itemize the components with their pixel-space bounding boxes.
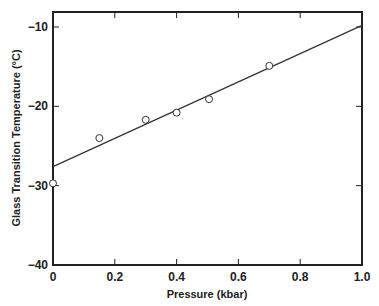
y-axis-label: Glass Transition Temperature (°C) bbox=[10, 49, 22, 227]
x-tick-label: 0.6 bbox=[230, 270, 247, 284]
y-tick-label: −30 bbox=[28, 179, 49, 193]
data-point bbox=[266, 62, 273, 69]
data-point bbox=[50, 180, 57, 187]
data-point bbox=[173, 109, 180, 116]
data-point bbox=[206, 96, 213, 103]
y-tick-label: −20 bbox=[28, 99, 49, 113]
x-tick-label: 0.8 bbox=[292, 270, 309, 284]
data-point bbox=[96, 135, 103, 142]
y-tick-label: −10 bbox=[28, 20, 49, 34]
x-tick-label: 1.0 bbox=[354, 270, 371, 284]
x-axis-ticks: 00.20.40.60.81.0 bbox=[50, 12, 371, 284]
y-tick-label: −40 bbox=[28, 258, 49, 272]
y-axis-ticks: −10−20−30−40 bbox=[28, 20, 362, 272]
x-tick-label: 0.4 bbox=[168, 270, 185, 284]
x-axis-label: Pressure (kbar) bbox=[167, 288, 248, 300]
data-point bbox=[142, 116, 149, 123]
x-tick-label: 0 bbox=[50, 270, 57, 284]
x-tick-label: 0.2 bbox=[106, 270, 123, 284]
chart: 00.20.40.60.81.0 −10−20−30−40 Pressure (… bbox=[0, 0, 379, 306]
